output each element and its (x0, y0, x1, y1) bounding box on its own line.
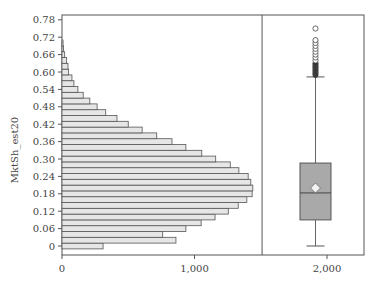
histogram-bar (62, 220, 201, 226)
histogram-bar (62, 203, 238, 209)
histogram-bar (62, 191, 252, 197)
histogram-bar (62, 63, 68, 69)
histogram-bar (62, 214, 215, 220)
histogram-bar (62, 145, 186, 151)
histogram-bar (62, 226, 186, 232)
histogram-bar (62, 110, 106, 116)
y-tick-label: 0.18 (33, 188, 55, 199)
histogram-bar (62, 150, 202, 156)
y-axis-title: MktSh_est20 (9, 117, 21, 183)
histogram-bar (62, 104, 97, 110)
x-tick-label: 0 (59, 263, 65, 274)
histogram-bar (62, 52, 65, 58)
histogram-bar (62, 232, 163, 238)
histogram-bar (62, 174, 248, 180)
histogram-bar (62, 179, 251, 185)
histogram-bar (62, 208, 228, 214)
histogram-bar (62, 92, 83, 98)
histogram-bar (62, 40, 63, 46)
y-tick-label: 0.30 (33, 154, 55, 165)
y-tick-label: 0.06 (33, 223, 55, 234)
histogram-bar (62, 69, 69, 75)
histogram-bar (62, 243, 103, 249)
histogram-bar (62, 168, 239, 174)
y-tick-label: 0.78 (33, 14, 55, 25)
histogram-bar (62, 133, 157, 139)
histogram-bar (62, 98, 90, 104)
y-tick-label: 0.12 (33, 206, 55, 217)
histogram-bar (62, 162, 230, 168)
y-axis: 00.060.120.180.240.300.360.420.480.540.6… (33, 14, 62, 251)
x-tick-label: 1,000 (180, 263, 209, 274)
y-tick-label: 0.54 (33, 84, 55, 95)
histogram-bar (62, 121, 128, 127)
outlier-marker (313, 26, 318, 31)
histogram-bar (62, 127, 142, 133)
histogram-bar (62, 139, 172, 145)
outlier-marker (313, 38, 318, 43)
histogram-bar (62, 75, 72, 81)
histogram-bar (62, 185, 253, 191)
histogram-bar (62, 116, 117, 122)
y-tick-label: 0.42 (33, 119, 55, 130)
histogram-bar (62, 87, 78, 93)
histogram-bar (62, 156, 216, 162)
x-axis: 01,0002,000 (59, 255, 342, 274)
histogram-boxplot-chart: 00.060.120.180.240.300.360.420.480.540.6… (0, 0, 381, 291)
histogram-bar (62, 81, 74, 87)
y-tick-label: 0.36 (33, 136, 55, 147)
y-tick-label: 0.72 (33, 32, 55, 43)
y-tick-label: 0 (49, 241, 55, 252)
histogram-bar (62, 58, 67, 64)
y-tick-label: 0.60 (33, 67, 55, 78)
y-tick-label: 0.48 (33, 101, 55, 112)
histogram-bar (62, 197, 247, 203)
histogram-bar (62, 46, 64, 52)
histogram-bar (62, 237, 176, 243)
y-tick-label: 0.66 (33, 49, 55, 60)
y-tick-label: 0.24 (33, 171, 55, 182)
x-tick-label: 2,000 (313, 263, 342, 274)
